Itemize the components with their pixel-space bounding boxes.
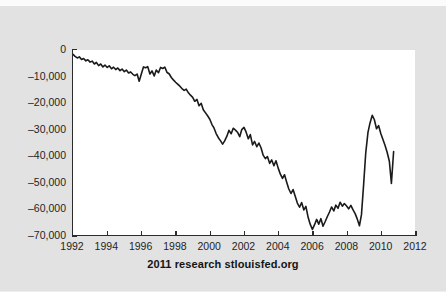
y-tick-label: –70,000 <box>0 229 66 241</box>
y-tick-label: –30,000 <box>0 123 66 135</box>
y-tick-label: –20,000 <box>0 96 66 108</box>
y-tick-label: 0 <box>0 43 66 55</box>
plot-wrapper: Millions of Dollars 0–10,000–20,000–30,0… <box>0 0 446 292</box>
y-tick-label: –10,000 <box>0 70 66 82</box>
x-tick-mark <box>312 231 313 236</box>
x-tick-label: 1996 <box>129 240 152 252</box>
x-tick-label: 2008 <box>335 240 358 252</box>
x-tick-mark <box>347 231 348 236</box>
y-tick-label: –60,000 <box>0 202 66 214</box>
x-tick-mark <box>107 231 108 236</box>
x-tick-mark <box>175 231 176 236</box>
x-tick-label: 2002 <box>232 240 255 252</box>
x-tick-label: 1994 <box>95 240 118 252</box>
chart-figure: U.S. Trade Balance Millions of Dollars 0… <box>0 0 446 292</box>
x-tick-mark <box>244 231 245 236</box>
y-tick-label: –50,000 <box>0 176 66 188</box>
source-caption: 2011 research stlouisfed.org <box>0 258 446 270</box>
x-tick-mark <box>415 231 416 236</box>
x-tick-mark <box>278 231 279 236</box>
plot-area <box>72 50 415 236</box>
x-tick-label: 1998 <box>163 240 186 252</box>
x-tick-mark <box>210 231 211 236</box>
data-series-line <box>73 50 415 235</box>
x-tick-label: 2006 <box>300 240 323 252</box>
x-tick-label: 2010 <box>369 240 392 252</box>
x-tick-label: 1992 <box>60 240 83 252</box>
x-tick-label: 2004 <box>266 240 289 252</box>
x-tick-label: 2000 <box>198 240 221 252</box>
y-tick-label: –40,000 <box>0 149 66 161</box>
x-tick-mark <box>381 231 382 236</box>
x-tick-mark <box>141 231 142 236</box>
x-tick-label: 2012 <box>403 240 426 252</box>
